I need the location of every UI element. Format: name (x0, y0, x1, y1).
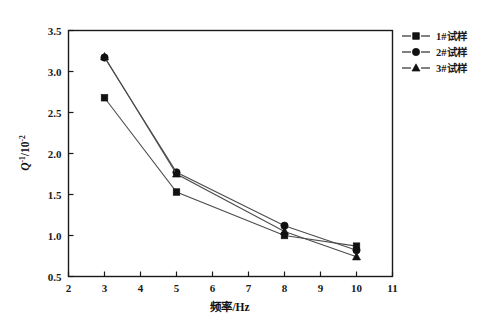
data-point-square (101, 94, 108, 101)
y-axis-title-divider-exponent: -2 (18, 135, 27, 141)
y-tick-label: 0.5 (48, 271, 62, 283)
y-tick-label: 3.0 (48, 66, 62, 78)
x-tick-label: 7 (246, 282, 252, 294)
x-tick-label: 4 (138, 282, 144, 294)
x-tick-label: 5 (174, 282, 180, 294)
legend-label: 1#试样 (436, 30, 468, 42)
y-tick-label: 1.5 (48, 189, 62, 201)
y-tick-label: 1.0 (48, 230, 62, 242)
x-tick-label: 10 (351, 282, 363, 294)
x-tick-label: 9 (318, 282, 324, 294)
data-point-square (173, 189, 180, 196)
legend-marker-square (413, 33, 420, 40)
x-axis-title: 频率/Hz (210, 300, 249, 313)
y-axis-title-divider: /10 (19, 141, 31, 157)
legend-label: 2#试样 (436, 46, 468, 58)
y-tick-label: 2.0 (48, 148, 62, 160)
x-tick-label: 3 (102, 282, 108, 294)
y-axis-title-base: Q (19, 162, 31, 170)
legend-label: 3#试样 (436, 62, 468, 74)
x-tick-label: 11 (387, 282, 397, 294)
y-tick-label: 3.5 (48, 25, 62, 37)
legend-marker-circle (412, 48, 419, 55)
frequency-damping-chart: 234567891011 0.51.01.52.02.53.03.5 频率/Hz… (0, 0, 494, 326)
x-tick-label: 6 (210, 282, 216, 294)
x-tick-label: 8 (282, 282, 288, 294)
x-tick-label: 2 (66, 282, 72, 294)
y-tick-label: 2.5 (48, 107, 62, 119)
